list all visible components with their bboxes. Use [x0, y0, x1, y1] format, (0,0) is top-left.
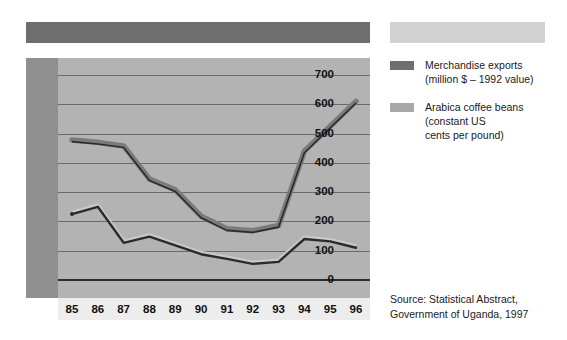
- y-axis-tick-label: 500: [315, 128, 334, 140]
- x-axis-strip: 858687888990919293949596: [58, 298, 370, 320]
- legend-label-line-1: Merchandise exports: [425, 58, 534, 72]
- x-axis-tick-label: 88: [143, 303, 156, 315]
- x-axis-tick-label: 91: [221, 303, 234, 315]
- x-axis-tick-label: 95: [324, 303, 337, 315]
- x-axis-tick-label: 92: [246, 303, 259, 315]
- x-axis-tick-label: 87: [117, 303, 130, 315]
- x-axis-tick-label: 93: [272, 303, 285, 315]
- series-line-merchandise-exports-halo: [72, 205, 356, 262]
- series-start-marker: [70, 212, 74, 216]
- legend-label-line-1: Arabica coffee beans: [425, 100, 523, 114]
- y-axis-band: [26, 58, 58, 298]
- series-lines: [58, 58, 370, 298]
- x-axis-tick-label: 96: [350, 303, 363, 315]
- legend-label-line-2: (constant US: [425, 114, 523, 128]
- legend-item-merchandise-exports: Merchandise exports (million $ – 1992 va…: [390, 58, 560, 86]
- legend-label-line-2: (million $ – 1992 value): [425, 72, 534, 86]
- legend-swatch-merchandise-exports: [390, 61, 414, 70]
- legend-swatch-arabica-coffee-beans: [390, 103, 414, 112]
- x-axis-tick-label: 94: [298, 303, 311, 315]
- y-axis-tick-label: 600: [315, 99, 334, 111]
- legend-item-arabica-coffee-beans: Arabica coffee beans (constant US cents …: [390, 100, 560, 142]
- y-axis-tick-label: 100: [315, 245, 334, 257]
- x-axis-tick-label: 90: [195, 303, 208, 315]
- chart-page: 0100200300400500600700 85868788899091929…: [0, 0, 567, 340]
- x-axis-tick-label: 85: [66, 303, 79, 315]
- legend: Merchandise exports (million $ – 1992 va…: [390, 58, 560, 156]
- y-axis-tick-label: 300: [315, 186, 334, 198]
- top-left-banner: [26, 22, 370, 43]
- chart: 0100200300400500600700 85868788899091929…: [26, 58, 370, 315]
- series-line-arabica-coffee-beans-edge: [72, 103, 356, 232]
- legend-label-merchandise-exports: Merchandise exports (million $ – 1992 va…: [425, 58, 534, 86]
- source-line-1: Source: Statistical Abstract,: [390, 292, 565, 307]
- series-line-arabica-coffee-beans: [72, 101, 356, 230]
- x-axis-tick-label: 86: [91, 303, 104, 315]
- y-axis-tick-label: 700: [315, 69, 334, 81]
- y-axis-tick-label: 400: [315, 157, 334, 169]
- y-axis-tick-label: 0: [328, 274, 334, 286]
- y-axis-tick-label: 200: [315, 216, 334, 228]
- plot-area: [58, 58, 370, 298]
- legend-label-line-3: cents per pound): [425, 128, 523, 142]
- source-note: Source: Statistical Abstract, Government…: [390, 292, 565, 322]
- top-right-banner: [390, 22, 545, 43]
- x-axis-tick-label: 89: [169, 303, 182, 315]
- legend-label-arabica-coffee-beans: Arabica coffee beans (constant US cents …: [425, 100, 523, 142]
- source-line-2: Government of Uganda, 1997: [390, 307, 565, 322]
